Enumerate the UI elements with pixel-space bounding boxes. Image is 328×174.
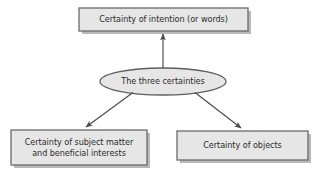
diagram-graphics [0,0,328,174]
node-certainty-of-subject-matter [11,130,147,165]
edge-to-subject-matter [86,93,133,128]
node-three-certainties [100,68,226,95]
diagram-canvas: Certainty of intention (or words) The th… [0,0,328,174]
node-certainty-of-objects [177,131,308,160]
node-certainty-of-intention [79,8,248,31]
edge-to-objects [195,93,241,129]
